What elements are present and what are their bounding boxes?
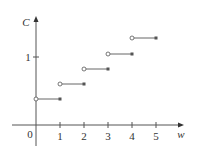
step-segment-5 bbox=[130, 36, 158, 40]
closed-point-icon bbox=[107, 68, 110, 71]
closed-point-icon bbox=[155, 37, 158, 40]
x-tick-label: 2 bbox=[81, 130, 87, 142]
x-axis-label: w bbox=[177, 128, 185, 140]
open-point-icon bbox=[106, 52, 110, 56]
closed-point-icon bbox=[131, 53, 134, 56]
y-tick-label: 1 bbox=[25, 51, 31, 63]
step-segment-3 bbox=[82, 67, 110, 71]
x-tick-label: 3 bbox=[105, 130, 111, 142]
open-point-icon bbox=[82, 67, 86, 71]
x-tick-label: 4 bbox=[129, 130, 135, 142]
closed-point-icon bbox=[83, 83, 86, 86]
open-point-icon bbox=[58, 82, 62, 86]
x-tick-label: 1 bbox=[57, 130, 63, 142]
closed-point-icon bbox=[59, 98, 62, 101]
step-segment-2 bbox=[58, 82, 86, 86]
step-segment-1 bbox=[34, 97, 62, 101]
x-tick-label: 5 bbox=[153, 130, 159, 142]
x-axis-arrow-icon bbox=[178, 123, 184, 128]
y-axis-label: C bbox=[22, 16, 30, 28]
step-function-chart: 0 1 2 3 4 5 w 1 C bbox=[0, 0, 199, 157]
open-point-icon bbox=[34, 97, 38, 101]
open-point-icon bbox=[130, 36, 134, 40]
step-segment-4 bbox=[106, 52, 134, 56]
y-axis-arrow-icon bbox=[34, 16, 39, 22]
origin-label: 0 bbox=[27, 128, 33, 140]
